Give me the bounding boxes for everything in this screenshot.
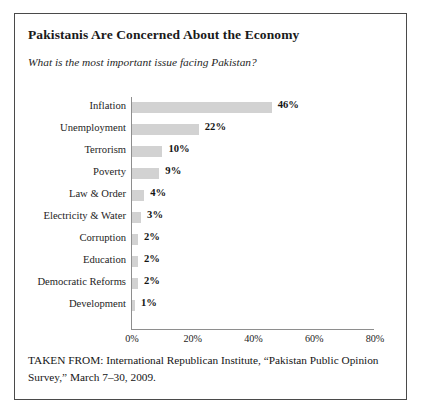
- bar: [132, 168, 159, 179]
- bar-row: Development1%: [14, 295, 393, 317]
- bar: [132, 278, 138, 289]
- bar: [132, 124, 199, 135]
- category-label: Inflation: [14, 100, 126, 111]
- bar-fill: [132, 168, 159, 179]
- bar-row: Education2%: [14, 251, 393, 273]
- bar: [132, 190, 144, 201]
- category-label: Electricity & Water: [14, 210, 126, 221]
- x-tick-label: 20%: [183, 333, 202, 344]
- bar-value-label: 2%: [144, 231, 160, 242]
- category-label: Democratic Reforms: [14, 276, 126, 287]
- bar: [132, 212, 141, 223]
- bar-fill: [132, 190, 144, 201]
- category-label: Education: [14, 254, 126, 265]
- category-label: Terrorism: [14, 144, 126, 155]
- category-label: Unemployment: [14, 122, 126, 133]
- bar-fill: [132, 234, 138, 245]
- x-tick-label: 60%: [305, 333, 324, 344]
- category-label: Law & Order: [14, 188, 126, 199]
- bar-fill: [132, 256, 138, 267]
- bar-row: Law & Order4%: [14, 185, 393, 207]
- bar-value-label: 9%: [165, 165, 181, 176]
- source-caption: TAKEN FROM: International Republican Ins…: [28, 352, 384, 385]
- bar-value-label: 2%: [144, 253, 160, 264]
- bar: [132, 256, 138, 267]
- bar-value-label: 4%: [150, 187, 166, 198]
- bar: [132, 300, 135, 311]
- bar-row: Democratic Reforms2%: [14, 273, 393, 295]
- bar-rows: Inflation46%Unemployment22%Terrorism10%P…: [14, 97, 393, 317]
- x-tick-label: 0%: [125, 333, 139, 344]
- bar-fill: [132, 278, 138, 289]
- bar-row: Terrorism10%: [14, 141, 393, 163]
- category-label: Poverty: [14, 166, 126, 177]
- bar-value-label: 10%: [168, 143, 189, 154]
- x-tick-label: 80%: [366, 333, 385, 344]
- chart-figure: Pakistanis Are Concerned About the Econo…: [0, 0, 421, 405]
- bar-fill: [132, 124, 199, 135]
- bar-row: Inflation46%: [14, 97, 393, 119]
- chart-subtitle: What is the most important issue facing …: [28, 56, 257, 68]
- bar-value-label: 1%: [141, 297, 157, 308]
- bar-row: Poverty9%: [14, 163, 393, 185]
- bar: [132, 234, 138, 245]
- bar-row: Unemployment22%: [14, 119, 393, 141]
- x-axis-line: [131, 329, 374, 330]
- bar-value-label: 46%: [278, 99, 299, 110]
- bar-fill: [132, 212, 141, 223]
- bar-fill: [132, 300, 135, 311]
- bar-fill: [132, 102, 272, 113]
- x-axis-ticks: 0%20%40%60%80%: [14, 333, 393, 349]
- category-label: Corruption: [14, 232, 126, 243]
- chart-title: Pakistanis Are Concerned About the Econo…: [28, 27, 299, 43]
- bar-fill: [132, 146, 162, 157]
- bar-value-label: 3%: [147, 209, 163, 220]
- bar-value-label: 2%: [144, 275, 160, 286]
- bar-row: Corruption2%: [14, 229, 393, 251]
- x-tick-label: 40%: [244, 333, 263, 344]
- category-label: Development: [14, 298, 126, 309]
- bar: [132, 146, 162, 157]
- bar: [132, 102, 272, 113]
- bar-row: Electricity & Water3%: [14, 207, 393, 229]
- bar-value-label: 22%: [205, 121, 226, 132]
- plot-area: Inflation46%Unemployment22%Terrorism10%P…: [14, 89, 393, 344]
